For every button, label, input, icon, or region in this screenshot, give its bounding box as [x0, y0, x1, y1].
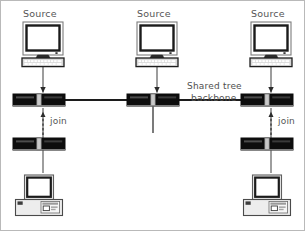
router-right-backbone[interactable] [241, 94, 293, 106]
receiver-desktop-right[interactable] [244, 175, 291, 216]
backbone-label-line1: Shared tree [187, 81, 242, 92]
router-left-backbone[interactable] [13, 94, 65, 106]
source-workstation-left[interactable] [22, 22, 64, 67]
router-center-backbone[interactable] [127, 94, 179, 106]
join-label-right: join [278, 116, 295, 126]
diagram-vector-layer [1, 1, 305, 231]
source-label-center: Source [137, 8, 171, 19]
source-label-left: Source [23, 8, 57, 19]
source-workstation-center[interactable] [136, 22, 178, 67]
join-label-left: join [50, 116, 67, 126]
router-right-leaf[interactable] [241, 138, 293, 150]
router-left-leaf[interactable] [13, 138, 65, 150]
receiver-desktop-left[interactable] [16, 175, 63, 216]
diagram-canvas: Source Source Source Shared tree backbon… [0, 0, 305, 231]
source-label-right: Source [251, 8, 285, 19]
source-workstation-right[interactable] [250, 22, 292, 67]
backbone-label-line2: backbone [191, 93, 236, 104]
